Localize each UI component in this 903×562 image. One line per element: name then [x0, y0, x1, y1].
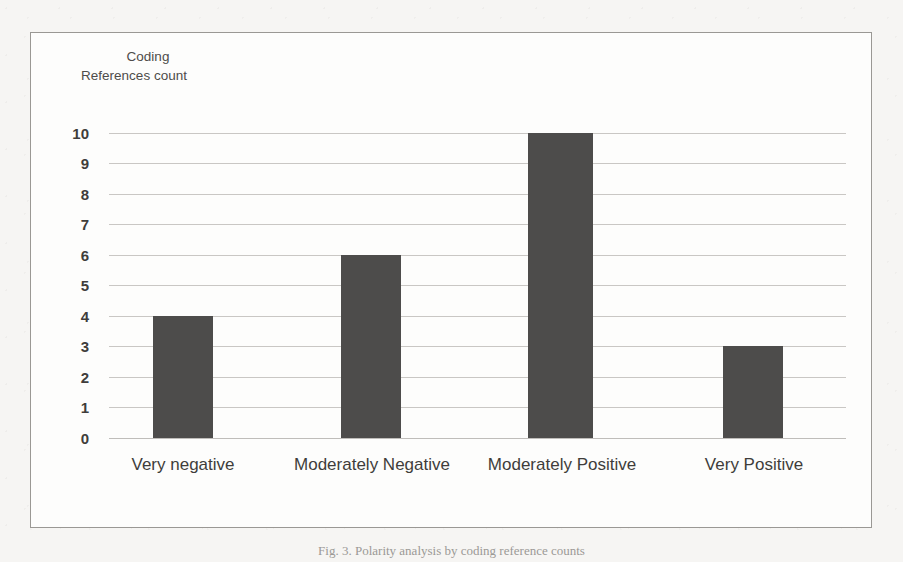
gridline-10: [109, 133, 846, 134]
bar-chart: Coding References count 10 9 8 7 6 5 4 3…: [30, 32, 872, 528]
x-label-moderately-positive: Moderately Positive: [483, 453, 641, 476]
y-tick-label-3: 3: [43, 339, 89, 354]
y-axis-title-line2: References count: [39, 66, 229, 85]
y-axis-title: Coding References count: [39, 47, 229, 85]
bar-moderately-positive[interactable]: [528, 133, 593, 438]
y-tick-label-0: 0: [43, 431, 89, 446]
x-label-very-positive: Very Positive: [679, 453, 829, 476]
y-tick-label-5: 5: [43, 278, 89, 293]
gridline-5: [109, 285, 846, 286]
gridline-8: [109, 194, 846, 195]
gridline-9: [109, 163, 846, 164]
x-label-very-negative: Very negative: [103, 453, 263, 476]
figure-caption: Fig. 3. Polarity analysis by coding refe…: [0, 543, 903, 559]
bar-very-positive[interactable]: [723, 346, 783, 438]
bar-moderately-negative[interactable]: [341, 255, 401, 438]
y-tick-label-7: 7: [43, 217, 89, 232]
gridline-7: [109, 224, 846, 225]
gridline-2: [109, 377, 846, 378]
y-tick-label-8: 8: [43, 187, 89, 202]
y-tick-label-10: 10: [43, 126, 89, 141]
y-tick-label-6: 6: [43, 248, 89, 263]
y-axis-title-line1: Coding: [39, 47, 229, 66]
gridline-0: [109, 438, 846, 439]
y-tick-label-4: 4: [43, 309, 89, 324]
gridline-6: [109, 255, 846, 256]
y-tick-label-1: 1: [43, 400, 89, 415]
gridline-4: [109, 316, 846, 317]
y-tick-label-2: 2: [43, 370, 89, 385]
bar-very-negative[interactable]: [153, 316, 213, 438]
x-label-moderately-negative: Moderately Negative: [293, 453, 451, 476]
gridline-3: [109, 346, 846, 347]
y-tick-label-9: 9: [43, 156, 89, 171]
gridline-1: [109, 407, 846, 408]
